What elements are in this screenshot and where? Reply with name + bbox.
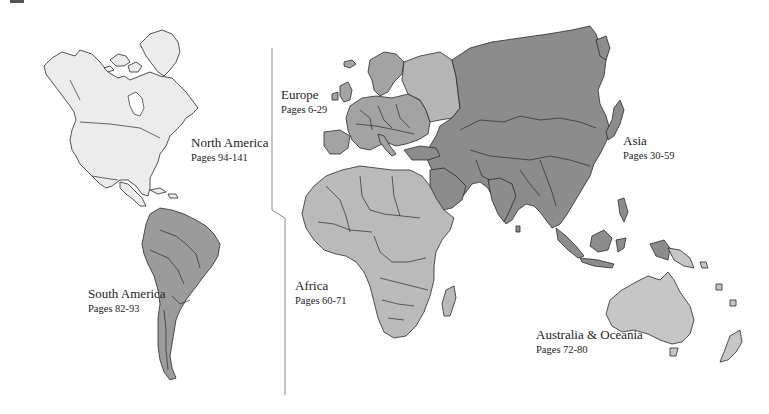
label-asia[interactable]: Asia Pages 30-59 — [623, 134, 675, 162]
europe-mainland[interactable] — [346, 94, 430, 150]
scandinavia[interactable] — [368, 52, 404, 96]
new-guinea-west[interactable] — [650, 240, 670, 260]
region-pages: Pages 6-29 — [281, 104, 327, 116]
sulawesi[interactable] — [616, 238, 626, 252]
label-south-america[interactable]: South America Pages 82-93 — [88, 287, 166, 315]
new-guinea-east[interactable] — [668, 248, 694, 268]
pacific-islands[interactable] — [700, 262, 736, 306]
region-name: South America — [88, 287, 166, 301]
north-america-landmass[interactable] — [44, 50, 198, 196]
region-pages: Pages 82-93 — [88, 303, 166, 315]
borneo[interactable] — [590, 230, 612, 252]
indonesia-java[interactable] — [580, 258, 614, 268]
region-name: Asia — [623, 134, 675, 148]
indonesia-sumatra[interactable] — [556, 228, 584, 258]
region-name: Africa — [295, 279, 347, 293]
greenland[interactable] — [140, 30, 180, 76]
iceland[interactable] — [344, 60, 356, 68]
region-pages: Pages 60-71 — [295, 295, 347, 307]
region-pages: Pages 94-141 — [191, 152, 269, 164]
label-north-america[interactable]: North America Pages 94-141 — [191, 136, 269, 164]
turkey[interactable] — [404, 146, 440, 160]
region-north-america[interactable] — [44, 30, 198, 206]
sri-lanka[interactable] — [516, 226, 520, 232]
label-africa[interactable]: Africa Pages 60-71 — [295, 279, 347, 307]
region-name: North America — [191, 136, 269, 150]
region-africa[interactable] — [302, 166, 456, 338]
region-name: Australia & Oceania — [536, 328, 643, 342]
caribbean-islands[interactable] — [150, 188, 178, 198]
region-pages: Pages 72-80 — [536, 344, 643, 356]
label-europe[interactable]: Europe Pages 6-29 — [281, 88, 327, 116]
africa-landmass[interactable] — [302, 166, 454, 338]
philippines[interactable] — [618, 198, 628, 222]
label-australia-oceania[interactable]: Australia & Oceania Pages 72-80 — [536, 328, 643, 356]
arctic-islands[interactable] — [104, 54, 142, 72]
world-map — [0, 0, 769, 414]
iberia[interactable] — [324, 130, 350, 154]
new-zealand[interactable] — [720, 330, 742, 362]
region-name: Europe — [281, 88, 327, 102]
british-isles[interactable] — [332, 82, 352, 102]
madagascar[interactable] — [442, 286, 456, 316]
tasmania[interactable] — [670, 348, 678, 356]
japan[interactable] — [606, 100, 624, 140]
region-pages: Pages 30-59 — [623, 150, 675, 162]
